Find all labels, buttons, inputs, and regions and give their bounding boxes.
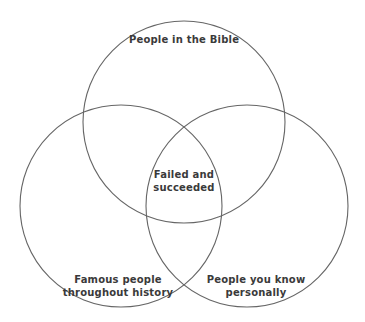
label-line: succeeded — [153, 181, 214, 194]
label-line: throughout history — [63, 286, 174, 299]
venn-circles — [0, 0, 365, 322]
label-line: People you know — [207, 273, 306, 286]
label-line: Famous people — [63, 273, 174, 286]
label-people-in-bible: People in the Bible — [129, 33, 239, 46]
label-line: personally — [207, 286, 306, 299]
label-text: People in the Bible — [129, 34, 239, 45]
label-line: Failed and — [153, 168, 214, 181]
label-famous-people: Famous people throughout history — [63, 273, 174, 299]
label-people-you-know: People you know personally — [207, 273, 306, 299]
venn-diagram: People in the Bible Failed and succeeded… — [0, 0, 365, 322]
label-center-intersection: Failed and succeeded — [153, 168, 214, 194]
